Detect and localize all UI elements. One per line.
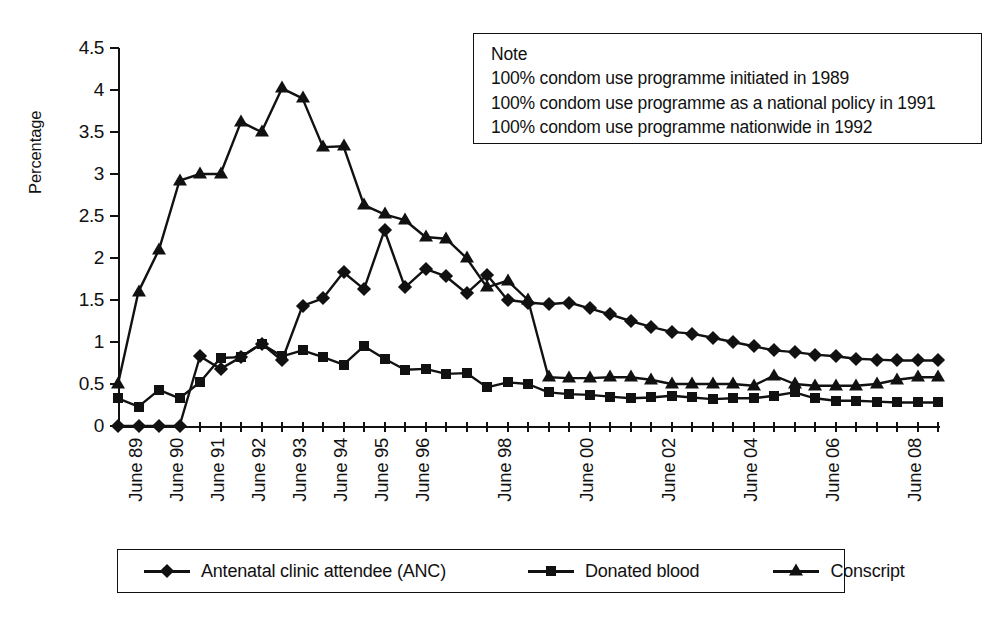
square-marker-icon (154, 385, 164, 395)
square-marker-icon (421, 364, 431, 374)
square-marker-icon (913, 397, 923, 407)
triangle-marker-icon (132, 284, 146, 296)
square-marker-icon (872, 397, 882, 407)
square-marker-icon (831, 396, 841, 406)
legend-item-donated-blood: Donated blood (528, 550, 700, 592)
triangle-marker-icon (685, 377, 699, 389)
square-marker-icon (605, 392, 615, 402)
triangle-marker-icon (870, 377, 884, 389)
triangle-marker-icon (316, 140, 330, 152)
square-marker-icon (339, 360, 349, 370)
x-tick-label: June 08 (904, 438, 926, 502)
legend-item-conscript: Conscript (773, 550, 904, 592)
y-tick-label: 4 (94, 79, 104, 101)
note-line-1: 100% condom use programme initiated in 1… (491, 66, 981, 90)
square-marker-icon (195, 377, 205, 387)
square-marker-icon (400, 365, 410, 375)
triangle-marker-icon (603, 370, 617, 382)
square-marker-icon (318, 352, 328, 362)
diamond-marker-icon (144, 570, 190, 573)
triangle-marker-icon (542, 370, 556, 382)
triangle-marker-icon (398, 213, 412, 225)
x-tick-label: June 04 (740, 438, 762, 502)
legend-label-donated-blood: Donated blood (585, 561, 700, 582)
square-marker-icon (441, 369, 451, 379)
triangle-marker-icon (214, 167, 228, 179)
y-tick-label: 3.5 (79, 121, 104, 143)
x-tick-label: June 89 (125, 438, 147, 502)
x-tick-label: June 98 (494, 438, 516, 502)
square-marker-icon (728, 393, 738, 403)
square-marker-icon (933, 397, 943, 407)
note-heading: Note (491, 42, 981, 66)
triangle-marker-icon (890, 372, 904, 384)
triangle-marker-icon (624, 370, 638, 382)
y-tick-label: 2 (94, 247, 104, 269)
square-marker-icon (769, 391, 779, 401)
y-tick-label: 1.5 (79, 289, 104, 311)
square-marker-icon (257, 339, 267, 349)
triangle-marker-icon (747, 378, 761, 390)
triangle-marker-icon (111, 377, 125, 389)
triangle-marker-icon (521, 293, 535, 305)
square-marker-icon (298, 345, 308, 355)
legend-label-anc: Antenatal clinic attendee (ANC) (201, 561, 446, 582)
chart-legend: Antenatal clinic attendee (ANC) Donated … (117, 549, 845, 593)
square-marker-icon (175, 393, 185, 403)
legend-item-anc: Antenatal clinic attendee (ANC) (144, 550, 446, 592)
y-tick-label: 0 (94, 415, 104, 437)
triangle-marker-icon (419, 230, 433, 242)
y-tick-label: 0.5 (79, 373, 104, 395)
triangle-marker-icon (644, 372, 658, 384)
y-tick-label: 2.5 (79, 205, 104, 227)
square-marker-icon (482, 382, 492, 392)
triangle-marker-icon (234, 114, 248, 126)
triangle-marker-icon (337, 139, 351, 151)
x-tick-label: June 90 (166, 438, 188, 502)
triangle-marker-icon (255, 125, 269, 137)
triangle-marker-icon (562, 371, 576, 383)
triangle-marker-icon (767, 368, 781, 380)
y-tick-label: 3 (94, 163, 104, 185)
triangle-marker-icon (378, 207, 392, 219)
x-tick-label: June 94 (330, 438, 352, 502)
triangle-marker-icon (583, 371, 597, 383)
y-tick-label: 4.5 (79, 37, 104, 59)
square-marker-icon (667, 391, 677, 401)
triangle-marker-icon (788, 377, 802, 389)
triangle-marker-icon (501, 273, 515, 285)
square-marker-icon (544, 387, 554, 397)
square-marker-icon (523, 379, 533, 389)
triangle-marker-icon (849, 378, 863, 390)
square-marker-icon (503, 377, 513, 387)
note-line-3: 100% condom use programme nationwide in … (491, 115, 981, 139)
square-marker-icon (359, 341, 369, 351)
triangle-marker-icon (665, 377, 679, 389)
square-marker-icon (749, 393, 759, 403)
triangle-marker-icon (460, 251, 474, 263)
x-tick-label: June 95 (371, 438, 393, 502)
chart-root: Percentage 00.511.522.533.544.5 June 89J… (0, 0, 1001, 628)
square-marker-icon (790, 387, 800, 397)
triangle-marker-icon (275, 81, 289, 93)
legend-label-conscript: Conscript (830, 561, 904, 582)
note-box: Note 100% condom use programme initiated… (473, 33, 982, 144)
triangle-marker-icon (439, 231, 453, 243)
y-axis-title: Percentage (26, 111, 45, 194)
x-tick-label: June 91 (207, 438, 229, 502)
square-marker-icon (462, 368, 472, 378)
square-marker-icon (708, 394, 718, 404)
square-marker-icon (810, 393, 820, 403)
square-marker-icon (564, 389, 574, 399)
square-marker-icon (113, 393, 123, 403)
square-marker-icon (687, 392, 697, 402)
triangle-marker-icon (726, 377, 740, 389)
x-tick-label: June 96 (412, 438, 434, 502)
triangle-marker-icon (193, 167, 207, 179)
triangle-marker-icon (808, 378, 822, 390)
square-marker-icon (626, 393, 636, 403)
note-line-2: 100% condom use programme as a national … (491, 91, 981, 115)
square-marker-icon (646, 392, 656, 402)
triangle-marker-icon (296, 91, 310, 103)
y-tick-label: 1 (94, 331, 104, 353)
